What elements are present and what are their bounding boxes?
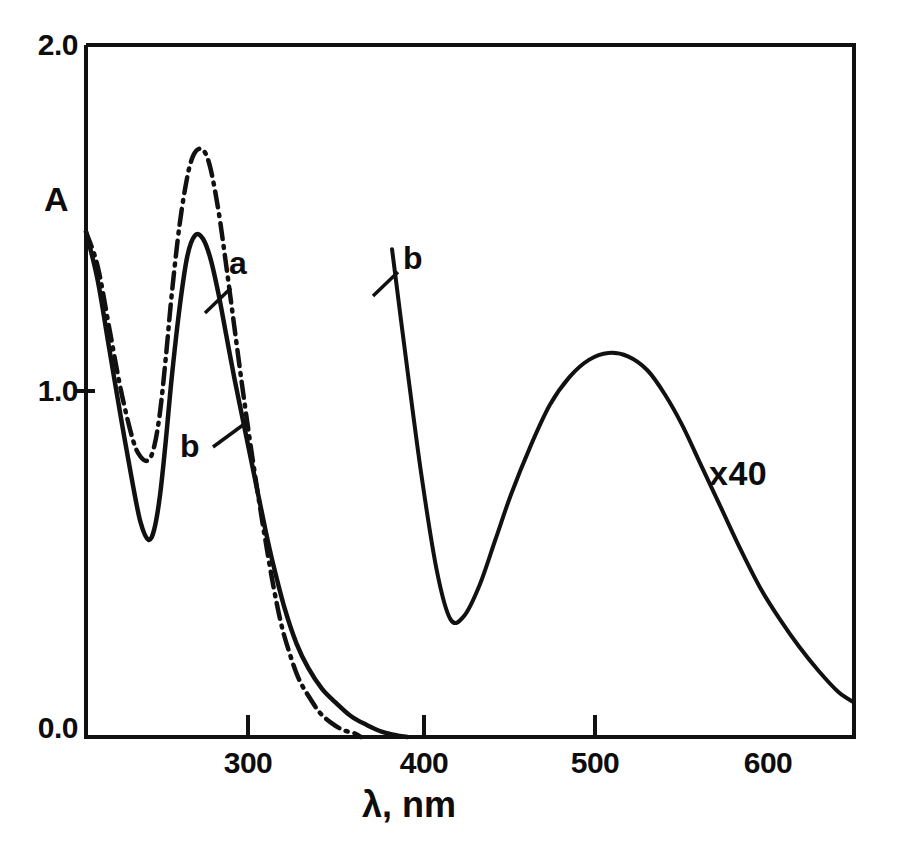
- x-axis-ticks: [248, 715, 595, 737]
- figure-container: 2.0 1.0 0.0 A 300 400 500 600 λ, nm a b …: [0, 0, 923, 850]
- y-tick-label-2.0: 2.0: [16, 28, 78, 62]
- curve-label-a-uv: a: [229, 245, 247, 282]
- x-tick-label-600: 600: [708, 746, 828, 780]
- y-tick-label-0.0: 0.0: [16, 711, 78, 745]
- spectrum-plot: [0, 0, 923, 850]
- curve-b-visible-solid: [392, 249, 854, 702]
- annotation-leaders: [205, 272, 398, 447]
- x-tick-label-500: 500: [535, 746, 655, 780]
- curve-label-b-uv: b: [180, 428, 200, 465]
- y-tick-label-1.0: 1.0: [16, 374, 78, 408]
- x-tick-label-300: 300: [188, 746, 308, 780]
- y-axis-title: A: [44, 180, 69, 219]
- x-tick-label-400: 400: [364, 746, 484, 780]
- leader-line-b-vis: [373, 272, 398, 296]
- curve-label-b-visible: b: [403, 240, 423, 277]
- curve-b-uv-solid: [86, 232, 408, 737]
- magnification-annotation: x40: [709, 454, 767, 493]
- leader-line-b-uv: [213, 425, 243, 447]
- x-axis-title: λ, nm: [362, 784, 456, 826]
